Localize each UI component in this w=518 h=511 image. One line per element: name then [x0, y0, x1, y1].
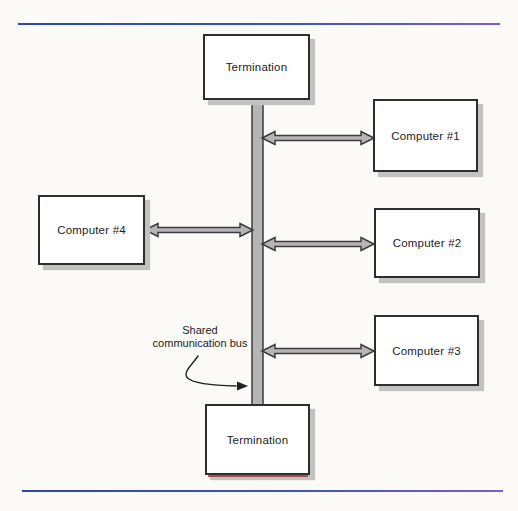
node-computer-1-label: Computer #1: [391, 130, 460, 142]
shared-bus-annotation-line2: communication bus: [148, 337, 252, 350]
top-rule-line: [18, 23, 500, 25]
shared-bus-annotation-line1: Shared: [148, 324, 252, 337]
double-arrow-computer-2: [262, 238, 374, 251]
node-computer-4-label: Computer #4: [57, 224, 126, 236]
node-computer-1: Computer #1: [373, 99, 478, 172]
scan-artifact-line: [208, 475, 308, 477]
double-arrow-computer-3: [262, 345, 374, 358]
figure-bus-topology: Termination Computer #1 Computer #4 Comp…: [0, 0, 518, 511]
node-computer-3-label: Computer #3: [392, 345, 461, 357]
node-computer-4: Computer #4: [38, 195, 145, 265]
node-computer-2-label: Computer #2: [393, 237, 462, 249]
double-arrow-computer-4: [145, 224, 253, 237]
label-leader-curve: [186, 356, 236, 386]
node-computer-3: Computer #3: [374, 315, 479, 386]
label-leader-arrowhead-icon: [237, 382, 248, 391]
bottom-rule-line: [22, 490, 503, 492]
shared-bus-annotation: Shared communication bus: [148, 324, 252, 350]
double-arrow-computer-1: [262, 132, 374, 145]
node-termination-bottom: Termination: [205, 404, 310, 475]
node-termination-top: Termination: [203, 34, 310, 100]
shared-bus-bar: [252, 98, 263, 406]
node-termination-bottom-label: Termination: [227, 434, 289, 446]
node-computer-2: Computer #2: [374, 208, 480, 278]
node-termination-top-label: Termination: [226, 61, 288, 73]
